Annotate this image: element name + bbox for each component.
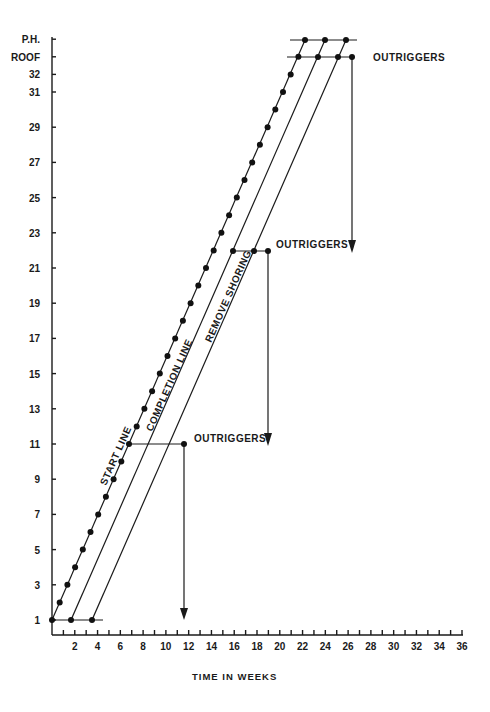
x-tick-label: 10 [160,641,172,652]
x-tick-label: 28 [365,641,377,652]
start-line-marker [157,371,163,377]
marker [230,248,236,254]
start-line-marker [257,142,263,148]
x-tick-label: 4 [95,641,101,652]
remove-shoring-line [92,40,346,620]
start-line-marker [234,195,240,201]
start-line-marker [188,300,194,306]
start-line-marker [103,494,109,500]
x-tick-label: 14 [206,641,218,652]
y-tick-label: 21 [29,263,41,274]
start-line-marker [134,423,140,429]
start-line-marker [211,247,217,253]
outriggers-top-label: OUTRIGGERS [373,52,445,63]
start-line-marker [203,265,209,271]
x-tick-label: 8 [140,641,146,652]
arrow-top-head-icon [348,240,356,253]
y-tick-label: 9 [34,474,40,485]
start-line-marker [165,353,171,359]
x-tick-label: 18 [251,641,263,652]
x-tick-label: 6 [118,641,124,652]
y-tick-label: P.H. [22,34,40,45]
marker [349,54,355,60]
start-line-marker [249,159,255,165]
start-line-marker [242,177,248,183]
y-tick-label: 29 [29,122,41,133]
marker [302,37,308,43]
y-axis-ticks: 13579111315171921232527293132ROOFP.H. [11,34,56,626]
schedule-chart: 13579111315171921232527293132ROOFP.H. 24… [0,0,490,712]
x-tick-label: 2 [72,641,78,652]
x-tick-label: 36 [456,641,468,652]
completion-line [71,40,325,620]
x-tick-label: 24 [320,641,332,652]
outriggers-low-label: OUTRIGGERS [194,433,266,444]
series-lines [52,40,346,620]
start-line-marker [180,318,186,324]
x-tick-label: 20 [274,641,286,652]
arrow-low-head-icon [180,608,188,620]
y-tick-label: 23 [29,228,41,239]
start-line-marker [272,107,278,113]
marker [181,441,187,447]
start-line-marker [149,388,155,394]
x-tick-label: 26 [343,641,355,652]
y-tick-label: 1 [34,615,40,626]
marker [322,37,328,43]
marker [68,617,74,623]
start-line-marker [280,89,286,95]
start-line-markers [49,54,301,623]
y-tick-label: 32 [29,69,41,80]
start-line-marker [57,599,63,605]
start-line-marker [226,212,232,218]
y-tick-label: 31 [29,87,41,98]
y-tick-label: 19 [29,298,41,309]
y-tick-label: 7 [34,509,40,520]
marker [89,617,95,623]
x-axis-ticks: 24681012141618202224262830323436 [63,630,468,652]
y-tick-label: 27 [29,157,41,168]
outriggers-mid-label: OUTRIGGERS [276,239,348,250]
start-line-marker [141,406,147,412]
y-tick-label: 15 [29,369,41,380]
x-tick-label: 16 [229,641,241,652]
event-lines [52,40,357,620]
x-tick-label: 34 [434,641,446,652]
x-tick-label: 22 [297,641,309,652]
marker [343,37,349,43]
y-tick-label: 3 [34,580,40,591]
start-line-marker [172,335,178,341]
start-line-marker [88,529,94,535]
marker [315,54,321,60]
y-tick-label: 5 [34,545,40,556]
y-tick-label: 11 [29,439,40,450]
y-tick-label: 13 [29,404,41,415]
y-tick-label: 25 [29,193,41,204]
start-line-marker [218,230,224,236]
start-line-marker [288,71,294,77]
start-line-marker [72,564,78,570]
marker [265,248,271,254]
start-line-marker [265,124,271,130]
y-tick-label: ROOF [11,52,40,63]
start-line-marker [295,54,301,60]
x-axis-title: TIME IN WEEKS [192,671,277,682]
start-line-marker [80,547,86,553]
marker [335,54,341,60]
start-line-marker [64,582,70,588]
start-line-marker [195,283,201,289]
start-line-marker [95,511,101,517]
y-tick-label: 17 [29,333,41,344]
x-tick-label: 32 [411,641,423,652]
x-tick-label: 30 [388,641,400,652]
start-line-marker [49,617,55,623]
x-tick-label: 12 [183,641,195,652]
